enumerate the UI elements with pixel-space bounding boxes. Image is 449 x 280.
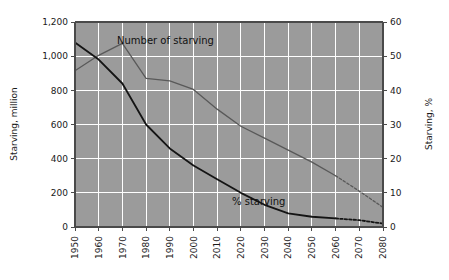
tick-label-bottom: 1980 [141, 236, 151, 259]
tick-label-bottom: 2010 [212, 236, 222, 259]
tick-label-left: 200 [51, 188, 68, 198]
tick-label-right: 10 [390, 188, 402, 198]
right-axis-title: Starving, % [424, 98, 434, 150]
tick-label-left: 400 [51, 154, 68, 164]
tick-label-left: 800 [51, 86, 68, 96]
left-axis-title: Starving, million [9, 87, 19, 160]
tick-label-bottom: 2040 [283, 236, 293, 259]
tick-label-left: 600 [51, 120, 68, 130]
tick-label-bottom: 2070 [355, 236, 365, 259]
tick-label-bottom: 2000 [189, 236, 199, 259]
tick-label-bottom: 2020 [236, 236, 246, 259]
series-label-pct-starving: % starving [232, 196, 285, 207]
tick-label-right: 60 [390, 17, 402, 27]
tick-label-right: 40 [390, 86, 402, 96]
tick-label-bottom: 1960 [94, 236, 104, 259]
starving-line-chart: 02004006008001,0001,200 0102030405060 19… [0, 0, 449, 280]
tick-label-bottom: 1950 [70, 236, 80, 259]
series-label-number-of-starving: Number of starving [117, 35, 214, 46]
tick-label-right: 0 [390, 222, 396, 232]
tick-label-bottom: 2050 [307, 236, 317, 259]
tick-label-right: 20 [390, 154, 402, 164]
tick-label-bottom: 2030 [260, 236, 270, 259]
tick-label-left: 1,000 [42, 51, 68, 61]
tick-label-bottom: 1990 [165, 236, 175, 259]
tick-label-left: 1,200 [42, 17, 68, 27]
tick-label-right: 30 [390, 120, 402, 130]
tick-label-bottom: 2060 [331, 236, 341, 259]
tick-label-bottom: 2080 [378, 236, 388, 259]
tick-label-left: 0 [62, 222, 68, 232]
tick-label-bottom: 1970 [118, 236, 128, 259]
chart-container: 02004006008001,0001,200 0102030405060 19… [0, 0, 449, 280]
tick-label-right: 50 [390, 51, 402, 61]
